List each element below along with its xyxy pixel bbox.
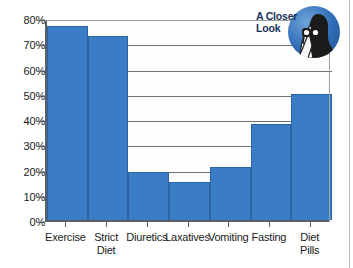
badge-title: A Closer Look [256,10,308,34]
y-axis-tick-mark [39,222,45,223]
a-closer-look-badge: A Closer Look [256,4,340,60]
figure-panel: 0%10%20%30%40%50%60%70%80% [0,0,353,268]
x-axis-tick-mark [269,222,270,227]
bar [169,182,210,220]
bar [210,167,251,220]
x-axis-tick-mark [106,222,107,227]
x-axis-tick-mark [228,222,229,227]
x-axis-tick-label: Diet Pills [281,231,338,256]
x-axis-tick-mark [188,222,189,227]
figure-right-rule [349,0,350,268]
bar [47,26,88,220]
x-axis-tick-mark [65,222,66,227]
bar [291,94,332,220]
y-axis: 0%10%20%30%40%50%60%70%80% [0,0,45,268]
bar [128,172,169,220]
x-axis-tick-mark [147,222,148,227]
bar [88,36,129,220]
x-axis-tick-mark [310,222,311,227]
bar [251,124,292,220]
